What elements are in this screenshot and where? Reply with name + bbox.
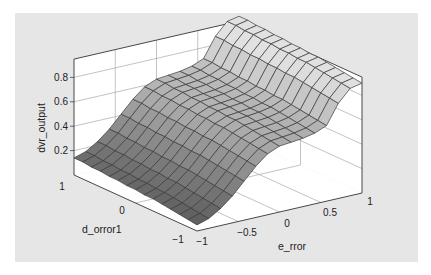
surface-plot[interactable]: 0.20.40.60.8−101−1−0.500.51 dvr_output d… [0, 0, 431, 275]
z-tick-label: 0.2 [54, 145, 68, 156]
y-axis-label: d_orror1 [82, 223, 122, 235]
x-tick-label: −1 [196, 236, 208, 247]
x-tick-label: −0.5 [237, 227, 257, 238]
x-axis-label: e_rror [278, 240, 307, 252]
y-tick-label: 1 [59, 181, 65, 192]
x-tick-label: 0 [284, 218, 290, 229]
x-tick-label: 0.5 [323, 207, 337, 218]
y-tick-label: 0 [119, 205, 125, 216]
z-axis-label: dvr_output [35, 103, 47, 153]
x-tick-label: 1 [367, 196, 373, 207]
y-tick-label: −1 [172, 234, 184, 245]
z-tick-label: 0.6 [54, 96, 68, 107]
z-tick-label: 0.8 [54, 72, 68, 83]
z-tick-label: 0.4 [54, 121, 68, 132]
